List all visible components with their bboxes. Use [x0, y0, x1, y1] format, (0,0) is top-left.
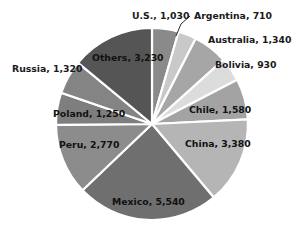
pie-chart-canvas: U.S., 1,030Argentina, 710Australia, 1,34… [0, 0, 297, 233]
pie-chart: U.S., 1,030Argentina, 710Australia, 1,34… [0, 0, 297, 233]
slice-label-others: Others, 3,230 [92, 52, 164, 63]
slice-label-bolivia: Bolivia, 930 [215, 59, 277, 70]
slice-label-china: China, 3,380 [185, 138, 251, 149]
slice-label-mexico: Mexico, 5,540 [112, 196, 185, 207]
slice-label-argentina: Argentina, 710 [194, 10, 273, 21]
slice-label-u-s: U.S., 1,030 [132, 10, 190, 21]
slice-label-poland: Poland, 1,250 [53, 108, 126, 119]
slice-label-russia: Russia, 1,320 [12, 63, 83, 74]
slice-label-chile: Chile, 1,580 [189, 104, 252, 115]
slice-label-australia: Australia, 1,340 [208, 34, 292, 45]
slice-label-peru: Peru, 2,770 [59, 139, 120, 150]
